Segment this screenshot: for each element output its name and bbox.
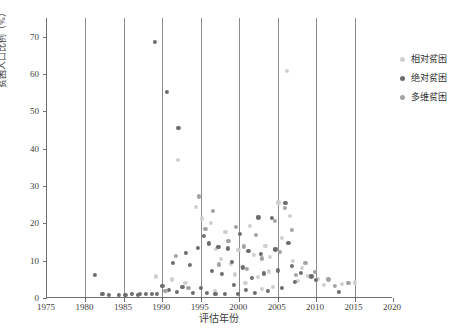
legend: 相对贫困绝对贫困多维贫困 (400, 50, 470, 107)
data-point (160, 284, 164, 288)
y-tick-label-50: 50 (13, 107, 39, 116)
data-point (233, 272, 237, 276)
data-point (117, 293, 121, 297)
data-point (278, 250, 282, 254)
data-point (229, 260, 233, 264)
data-point (216, 245, 220, 249)
data-point (259, 287, 263, 291)
data-point (154, 274, 158, 278)
plot-area (46, 18, 392, 298)
poverty-scatter-chart: 贫困人口比例（%） 评估年份 相对贫困绝对贫困多维贫困 010203040506… (0, 0, 471, 333)
data-point (309, 274, 313, 278)
data-point (276, 200, 280, 204)
x-tick-label-2010: 2010 (293, 303, 337, 312)
data-point (186, 285, 190, 289)
data-point (288, 214, 292, 218)
data-point (246, 249, 250, 253)
x-tick-label-2020: 2020 (370, 303, 414, 312)
data-point (171, 261, 175, 265)
data-point (254, 233, 258, 237)
data-point (175, 290, 179, 294)
data-point (263, 244, 267, 248)
legend-marker-icon (400, 95, 405, 100)
data-point (184, 251, 188, 255)
gridline-2010 (316, 18, 317, 297)
y-tick-label-30: 30 (13, 182, 39, 191)
data-point (223, 230, 227, 234)
gridline-1995 (201, 18, 202, 297)
data-point (268, 255, 272, 259)
data-point (232, 283, 236, 287)
gridline-2015 (355, 18, 356, 297)
y-tick-mark-70 (43, 37, 47, 38)
data-point (202, 234, 206, 238)
y-tick-mark-0 (43, 298, 47, 299)
data-point (219, 257, 223, 261)
data-point (205, 291, 209, 295)
data-point (276, 268, 280, 272)
data-point (136, 293, 140, 297)
y-tick-label-10: 10 (13, 257, 39, 266)
y-tick-mark-20 (43, 223, 47, 224)
data-point (180, 285, 184, 289)
y-tick-label-60: 60 (13, 70, 39, 79)
y-axis-title: 贫困人口比例（%） (0, 0, 7, 108)
data-point (149, 292, 153, 296)
data-point (176, 158, 180, 162)
data-point (217, 262, 221, 266)
data-point (144, 292, 148, 296)
data-point (253, 291, 257, 295)
data-point (209, 221, 213, 225)
legend-item-2[interactable]: 多维贫困 (400, 88, 470, 107)
data-point (176, 126, 180, 130)
data-point (340, 282, 344, 286)
data-point (262, 271, 266, 275)
data-point (271, 285, 275, 289)
data-point (352, 280, 356, 284)
data-point (244, 288, 248, 292)
gridline-1990 (162, 18, 163, 297)
y-tick-mark-40 (43, 149, 47, 150)
data-point (100, 292, 104, 296)
data-point (250, 276, 254, 280)
data-point (199, 286, 203, 290)
data-point (280, 235, 284, 239)
data-point (188, 263, 192, 267)
data-point (155, 292, 159, 296)
data-point (223, 291, 227, 295)
data-point (167, 288, 171, 292)
data-point (220, 272, 224, 276)
data-point (346, 281, 350, 285)
x-tick-label-1995: 1995 (178, 303, 222, 312)
data-point (314, 278, 318, 282)
data-point (337, 290, 341, 294)
data-point (292, 279, 296, 283)
legend-label: 相对贫困 (411, 55, 447, 64)
data-point (203, 226, 207, 230)
data-point (267, 269, 271, 273)
data-point (194, 204, 198, 208)
data-point (207, 241, 211, 245)
gridline-2000 (239, 18, 240, 297)
data-point (234, 225, 238, 229)
data-point (256, 215, 260, 219)
data-point (260, 256, 264, 260)
data-point (282, 206, 286, 210)
data-point (322, 283, 326, 287)
gridline-2005 (278, 18, 279, 297)
data-point (303, 261, 307, 265)
legend-label: 绝对贫困 (411, 74, 447, 83)
data-point (289, 228, 293, 232)
data-point (266, 288, 270, 292)
data-point (285, 69, 289, 73)
data-point (174, 254, 178, 258)
legend-item-0[interactable]: 相对贫困 (400, 50, 470, 69)
x-tick-label-1980: 1980 (62, 303, 106, 312)
data-point (165, 90, 169, 94)
y-tick-label-20: 20 (13, 219, 39, 228)
data-point (226, 246, 230, 250)
x-tick-label-2000: 2000 (216, 303, 260, 312)
gridline-1980 (85, 18, 86, 297)
legend-item-1[interactable]: 绝对贫困 (400, 69, 470, 88)
data-point (123, 293, 127, 297)
